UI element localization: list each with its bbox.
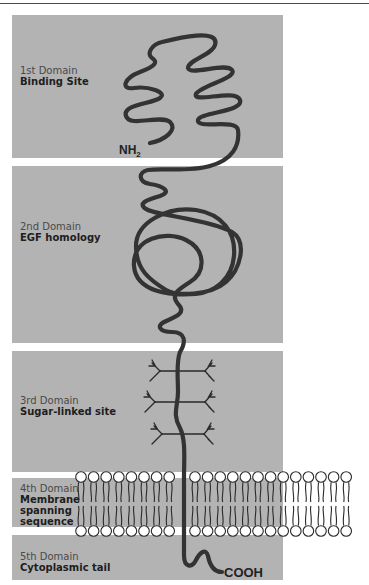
lipid-head-icon xyxy=(126,472,137,483)
lipid-head-icon xyxy=(139,472,150,483)
lipid-head-icon xyxy=(303,526,314,537)
lipid-head-icon xyxy=(88,526,99,537)
lipid-head-icon xyxy=(139,526,150,537)
lipid-head-icon xyxy=(228,472,239,483)
lipid-head-icon xyxy=(265,472,276,483)
lipid-head-icon xyxy=(291,526,302,537)
lipid-head-icon xyxy=(101,526,112,537)
c-terminus-label: COOH xyxy=(224,565,263,580)
lipid-head-icon xyxy=(265,526,276,537)
lipid-head-icon xyxy=(215,472,226,483)
lipid-head-icon xyxy=(291,472,302,483)
n-terminus-label: NH2 xyxy=(119,143,141,159)
lipid-head-icon xyxy=(215,526,226,537)
lipid-head-icon xyxy=(278,472,289,483)
lipid-head-icon xyxy=(240,472,251,483)
lipid-head-icon xyxy=(190,526,201,537)
lipid-head-icon xyxy=(164,472,175,483)
lipid-head-icon xyxy=(328,526,339,537)
lipid-head-icon xyxy=(126,526,137,537)
lipid-head-icon xyxy=(164,526,175,537)
lipid-bilayer xyxy=(76,472,352,537)
lipid-head-icon xyxy=(76,526,87,537)
lipid-head-icon xyxy=(228,526,239,537)
lipid-head-icon xyxy=(253,472,264,483)
lipid-head-icon xyxy=(202,472,213,483)
lipid-head-icon xyxy=(76,472,87,483)
lipid-head-icon xyxy=(341,472,352,483)
lipid-head-icon xyxy=(151,472,162,483)
protein-diagram: NH2 COOH xyxy=(0,0,369,585)
lipid-head-icon xyxy=(278,526,289,537)
lipid-head-icon xyxy=(114,526,125,537)
sugar-chain-1-icon xyxy=(149,360,215,381)
lipid-head-icon xyxy=(190,472,201,483)
lipid-head-icon xyxy=(316,472,327,483)
lipid-head-icon xyxy=(88,472,99,483)
lipid-head-icon xyxy=(303,472,314,483)
lipid-head-icon xyxy=(316,526,327,537)
lipid-head-icon xyxy=(151,526,162,537)
lipid-head-icon xyxy=(202,526,213,537)
lipid-head-icon xyxy=(114,472,125,483)
lipid-head-icon xyxy=(240,526,251,537)
lipid-head-icon xyxy=(328,472,339,483)
polypeptide-chain xyxy=(125,35,240,572)
lipid-head-icon xyxy=(101,472,112,483)
lipid-head-icon xyxy=(341,526,352,537)
lipid-head-icon xyxy=(253,526,264,537)
